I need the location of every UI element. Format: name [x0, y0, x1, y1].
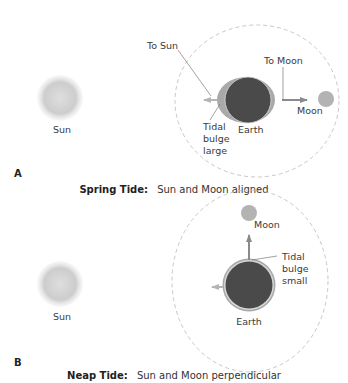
tidal-bulge-leader: [210, 104, 220, 120]
to-moon-label: To Moon: [263, 55, 303, 66]
panel-a-spring-tide: Sun To Sun To Moon Moon Tidal bulge larg…: [14, 25, 339, 197]
caption-b: Neap Tide: Sun and Moon perpendicular: [67, 364, 282, 383]
sun-label: Sun: [53, 124, 71, 135]
tidal-bulge-label: Tidal bulge small: [281, 251, 312, 286]
sun-label: Sun: [53, 311, 71, 322]
caption-a: Spring Tide: Sun and Moon aligned: [79, 178, 268, 197]
earth-icon: [226, 262, 273, 309]
earth-icon: [225, 77, 271, 123]
panel-b-neap-tide: Sun Moon Tidal bulge small Earth B Neap …: [14, 190, 328, 383]
moon-label: Moon: [254, 219, 280, 230]
earth-label: Earth: [236, 316, 261, 327]
tide-diagram: Sun To Sun To Moon Moon Tidal bulge larg…: [0, 0, 348, 383]
to-sun-label: To Sun: [146, 40, 178, 51]
to-sun-leader: [178, 50, 211, 96]
panel-label-a: A: [14, 168, 22, 179]
panel-label-b: B: [14, 357, 22, 368]
earth-label: Earth: [238, 124, 263, 135]
tidal-bulge-leader: [252, 256, 277, 260]
sun-icon: [37, 75, 83, 121]
moon-label: Moon: [297, 105, 323, 116]
tidal-bulge-label: Tidal bulge large: [202, 121, 233, 156]
sun-icon: [37, 261, 83, 307]
